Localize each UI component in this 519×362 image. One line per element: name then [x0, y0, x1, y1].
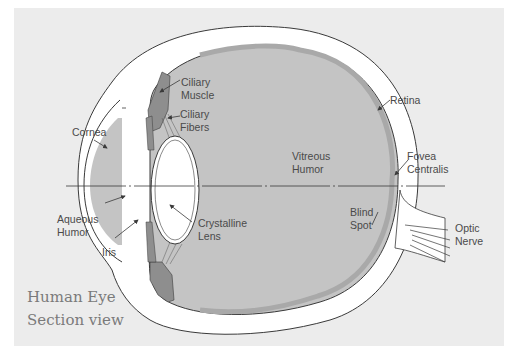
label-optic-nerve-1: Optic — [455, 222, 480, 234]
label-vitreous-humor-1: Vitreous — [292, 150, 330, 162]
label-aqueous-humor-2: Humor — [57, 226, 89, 238]
label-crystalline-lens-1: Crystalline — [198, 217, 247, 229]
label-ciliary-muscle-2: Muscle — [181, 89, 214, 101]
label-vitreous-humor-2: Humor — [292, 163, 324, 175]
label-optic-nerve-2: Nerve — [455, 235, 483, 247]
label-ciliary-fibers-2: Fibers — [180, 121, 209, 133]
label-aqueous-humor-1: Aqueous — [57, 213, 98, 225]
label-ciliary-muscle-1: Ciliary — [181, 76, 211, 88]
label-blind-spot-2: Spot — [350, 219, 372, 231]
label-crystalline-lens-2: Lens — [198, 230, 221, 242]
diagram-title-line1: Human Eye — [27, 288, 116, 306]
label-iris: Iris — [102, 246, 116, 258]
label-fovea-centralis-2: Centralis — [407, 163, 448, 175]
label-fovea-centralis-1: Fovea — [407, 150, 436, 162]
label-ciliary-fibers-1: Ciliary — [180, 108, 210, 120]
human-eye-diagram: Ciliary Muscle Ciliary Fibers Cornea Ret… — [0, 0, 519, 362]
label-blind-spot-1: Blind — [350, 206, 374, 218]
label-retina: Retina — [390, 94, 421, 106]
label-cornea: Cornea — [72, 126, 107, 138]
crystalline-lens — [151, 136, 199, 244]
diagram-title-line2: Section view — [27, 311, 124, 329]
